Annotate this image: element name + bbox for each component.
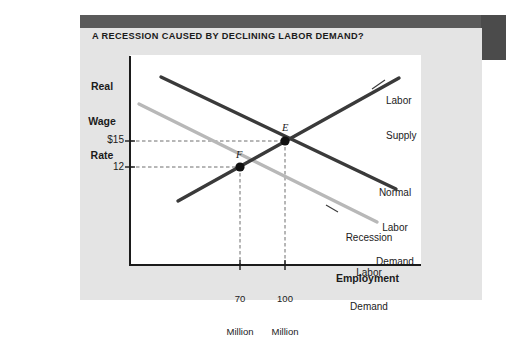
x-tick-label-100: 100 Million bbox=[257, 271, 313, 339]
point-F-marker bbox=[235, 162, 244, 171]
x-tick-label-100-value: 100 bbox=[257, 293, 313, 304]
recession-labor-demand-label-line-3: Demand bbox=[336, 301, 402, 313]
labor-supply-label: Labor Supply bbox=[386, 72, 446, 164]
y-axis-title-line-1: Real bbox=[78, 81, 126, 93]
y-axis-title-line-3: Rate bbox=[78, 150, 126, 162]
labor-supply-label-line-1: Labor bbox=[386, 95, 446, 107]
recession-labor-demand-label-line-2: Labor bbox=[336, 267, 402, 279]
recession-labor-demand-label: Recession Labor Demand bbox=[336, 209, 402, 336]
y-tick-label-15: $15 bbox=[72, 134, 124, 145]
recession-labor-demand-label-line-1: Recession bbox=[336, 232, 402, 244]
x-tick-label-100-unit: Million bbox=[257, 326, 313, 337]
point-E-label: E bbox=[282, 122, 288, 133]
point-E-marker bbox=[280, 136, 289, 145]
labor-supply-label-line-2: Supply bbox=[386, 130, 446, 142]
tick-marks bbox=[125, 141, 285, 270]
y-axis-title-line-2: Wage bbox=[78, 116, 126, 128]
y-tick-label-12: 12 bbox=[72, 161, 124, 172]
normal-labor-demand-label-line-1: Normal bbox=[367, 187, 423, 199]
point-F-label: F bbox=[236, 149, 242, 160]
guide-lines bbox=[130, 141, 285, 265]
